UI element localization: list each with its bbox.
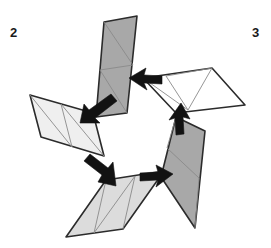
triangle-strip-diagram: 2 3 [0, 0, 271, 248]
figure-container: 2 3 [0, 0, 271, 248]
figure-label-2: 2 [10, 25, 17, 40]
figure-label-3: 3 [252, 25, 259, 40]
